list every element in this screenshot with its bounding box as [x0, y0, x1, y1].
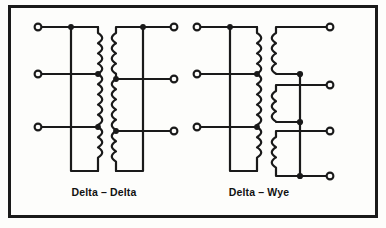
dd-junction-secondary-a [140, 24, 146, 30]
dd-terminal-left-a [35, 24, 42, 31]
dd-terminal-right-b [171, 76, 178, 83]
dw-junction-neutral-1 [297, 71, 303, 77]
dd-terminal-right-c [171, 128, 178, 135]
dw-terminal-right-a [327, 24, 334, 31]
dw-junction-neutral-2 [297, 119, 303, 125]
dw-junction-primary-a [227, 24, 233, 30]
dw-terminal-left-a [194, 24, 201, 31]
dd-junction-secondary-c [113, 128, 119, 134]
dw-junction-neutral-3 [297, 173, 303, 179]
dw-terminal-right-neutral [327, 173, 334, 180]
dw-terminal-left-c [194, 124, 201, 131]
dw-junction-primary-b [254, 71, 260, 77]
canvas-background [0, 0, 386, 228]
delta-delta-label: Delta – Delta [72, 186, 137, 198]
dw-terminal-right-b [327, 82, 334, 89]
dd-junction-secondary-b [113, 76, 119, 82]
delta-wye-label: Delta – Wye [229, 186, 289, 198]
dd-junction-primary-c [95, 124, 101, 130]
dw-junction-primary-c [254, 124, 260, 130]
dd-junction-primary-b [95, 71, 101, 77]
dd-junction-primary-a [68, 24, 74, 30]
diagram-canvas: Delta – Delta Delta – Wye [0, 0, 386, 228]
dd-terminal-right-a [171, 24, 178, 31]
dd-terminal-left-b [35, 71, 42, 78]
dw-terminal-right-c [327, 128, 334, 135]
dd-terminal-left-c [35, 124, 42, 131]
dw-terminal-left-b [194, 71, 201, 78]
transformer-diagram-figure: Delta – Delta Delta – Wye [0, 0, 386, 228]
